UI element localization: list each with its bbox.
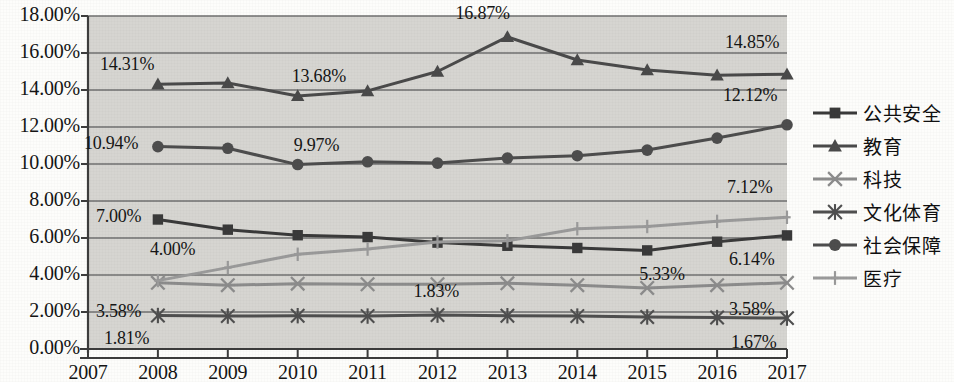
legend-item-4[interactable]: 社会保障 <box>812 228 954 261</box>
data-point-square <box>153 214 163 224</box>
data-point-label: 3.58% <box>729 299 775 320</box>
data-point-label: 7.00% <box>96 206 142 227</box>
data-point-circle <box>641 144 653 156</box>
data-point-label: 5.33% <box>639 264 685 285</box>
data-point-label: 12.12% <box>723 85 777 106</box>
data-point-circle <box>711 132 723 144</box>
x-axis-label: 2010 <box>268 361 328 382</box>
x-axis-label: 2012 <box>408 361 468 382</box>
chart-legend: 公共安全教育科技文化体育社会保障医疗 <box>812 96 954 294</box>
x-axis-label: 2013 <box>477 361 537 382</box>
x-axis-label: 2007 <box>58 361 118 382</box>
chart-figure: 公共安全教育科技文化体育社会保障医疗 0.00%2.00%4.00%6.00%8… <box>0 0 954 382</box>
data-point-square <box>830 107 841 118</box>
data-point-circle <box>432 157 444 169</box>
data-point-label: 10.94% <box>84 133 138 154</box>
square-marker-icon <box>812 102 858 124</box>
data-point-label: 14.85% <box>725 32 779 53</box>
x-axis-label: 2017 <box>757 361 817 382</box>
legend-label: 社会保障 <box>863 231 941 258</box>
data-point-square <box>642 245 652 255</box>
x-axis-label: 2015 <box>617 361 677 382</box>
data-point-label: 13.68% <box>292 66 346 87</box>
triangle-marker-icon <box>812 135 858 157</box>
y-axis-label: 12.00% <box>0 114 80 137</box>
data-point-circle <box>222 142 234 154</box>
data-point-label: 1.67% <box>731 332 777 353</box>
y-axis-label: 6.00% <box>0 225 80 248</box>
data-point-square <box>572 243 582 253</box>
x-axis-label: 2016 <box>687 361 747 382</box>
x-axis-label: 2011 <box>338 361 398 382</box>
data-point-square <box>293 230 303 240</box>
data-point-label: 9.97% <box>294 135 340 156</box>
x-marker-icon <box>812 168 858 190</box>
data-point-label: 6.14% <box>729 249 775 270</box>
x-axis-label: 2008 <box>128 361 188 382</box>
asterisk-marker-icon <box>812 201 858 223</box>
legend-label: 科技 <box>863 165 902 192</box>
circle-marker-icon <box>812 234 858 256</box>
y-axis-label: 14.00% <box>0 77 80 100</box>
data-point-circle <box>362 156 374 168</box>
y-axis-label: 2.00% <box>0 299 80 322</box>
legend-label: 文化体育 <box>863 198 941 225</box>
data-point-square <box>782 230 792 240</box>
data-point-label: 14.31% <box>100 54 154 75</box>
data-point-circle <box>502 152 514 164</box>
data-point-plus <box>831 271 839 285</box>
data-point-label: 1.83% <box>414 281 460 302</box>
data-point-square <box>362 232 372 242</box>
legend-item-3[interactable]: 文化体育 <box>812 195 954 228</box>
x-axis-label: 2009 <box>198 361 258 382</box>
legend-label: 教育 <box>863 132 902 159</box>
data-point-label: 3.58% <box>96 301 142 322</box>
legend-item-1[interactable]: 教育 <box>812 129 954 162</box>
plus-marker-icon <box>812 267 858 289</box>
data-point-label: 1.81% <box>104 328 150 349</box>
data-point-circle <box>781 119 793 131</box>
y-axis-label: 0.00% <box>0 336 80 359</box>
legend-label: 公共安全 <box>863 99 941 126</box>
y-axis-label: 16.00% <box>0 40 80 63</box>
data-point-label: 16.87% <box>456 3 510 24</box>
data-point-square <box>712 237 722 247</box>
y-axis-label: 8.00% <box>0 188 80 211</box>
data-point-circle <box>152 141 164 153</box>
data-point-label: 4.00% <box>150 239 196 260</box>
y-axis-label: 18.00% <box>0 3 80 26</box>
data-point-square <box>223 224 233 234</box>
data-point-circle <box>572 150 584 162</box>
legend-label: 医疗 <box>863 264 902 291</box>
legend-item-0[interactable]: 公共安全 <box>812 96 954 129</box>
legend-item-2[interactable]: 科技 <box>812 162 954 195</box>
data-point-circle <box>292 159 304 171</box>
data-point-circle <box>829 239 841 251</box>
y-axis-label: 4.00% <box>0 262 80 285</box>
data-point-label: 7.12% <box>727 177 773 198</box>
y-axis-label: 10.00% <box>0 151 80 174</box>
legend-item-5[interactable]: 医疗 <box>812 261 954 294</box>
x-axis-label: 2014 <box>547 361 607 382</box>
